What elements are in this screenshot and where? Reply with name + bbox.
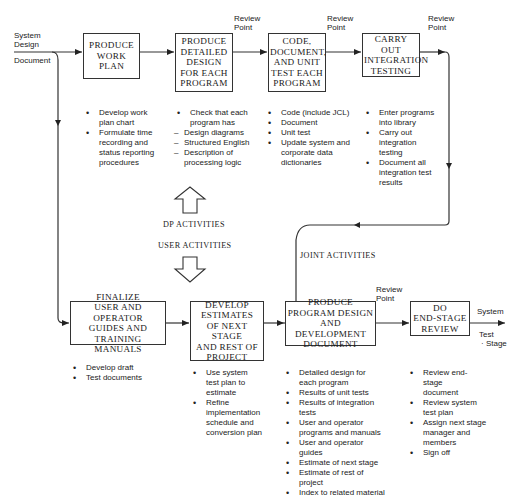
box-line: FINALIZE	[72, 292, 164, 303]
box-finalize-guides: FINALIZE USER AND OPERATOR GUIDES AND TR…	[70, 301, 166, 345]
bullet-item: Code (include JCL)	[265, 108, 373, 118]
input-label-line: Design	[14, 40, 41, 49]
box-code-document-unit-test: CODE, DOCUMENT, AND UNIT TEST EACH PROGR…	[268, 33, 326, 92]
dp-activities-label: DP ACTIVITIES	[163, 220, 225, 229]
box-line: TESTING	[364, 66, 418, 77]
box-develop-estimates: DEVELOP ESTIMATES OF NEXT STAGE AND REST…	[190, 301, 264, 361]
box-line: FOR EACH	[177, 68, 231, 79]
box-line: END-STAGE	[412, 313, 468, 324]
review-line: Point	[234, 23, 260, 32]
box-line: DO	[412, 303, 468, 314]
bullet-item: Review end-stage document	[407, 368, 479, 398]
box-line: PRODUCE	[287, 297, 374, 308]
review-point-label: Review Point	[327, 14, 353, 32]
bullet-item: Design diagrams	[174, 128, 260, 138]
box-line: PRODUCE	[177, 36, 231, 47]
review-line: Review	[376, 285, 402, 294]
box-line: CODE,	[270, 36, 324, 47]
bullet-item: Check that each program has	[174, 108, 260, 128]
bullet-item: Test documents	[70, 373, 160, 383]
box-line: PROJECT	[192, 352, 262, 363]
bullet-item: Use system test plan to estimate	[190, 368, 256, 398]
bullet-item: Refine implementation schedule and conve…	[190, 398, 270, 438]
box-produce-detailed-design: PRODUCE DETAILED DESIGN FOR EACH PROGRAM	[175, 33, 233, 92]
bullet-item: Results of unit tests	[283, 388, 387, 398]
box-line: REVIEW	[412, 324, 468, 335]
review-point-label: Review Point	[234, 14, 260, 32]
bullets-code-document-unit-test: Code (include JCL) Document Unit test Up…	[265, 108, 373, 168]
box-line: PROGRAM	[177, 78, 231, 89]
review-point-label: Review Point	[376, 285, 402, 303]
bullet-item: Carry out integration testing	[363, 128, 439, 158]
bullets-do-end-stage-review: Review end-stage document Review system …	[407, 368, 481, 458]
bullet-item: Document all integration test results	[363, 158, 439, 188]
bullet-item: Review system test plan	[407, 398, 489, 418]
box-line: PROGRAM	[270, 78, 324, 89]
input-label-system-design: System Design	[14, 31, 41, 49]
box-line: PROGRAM DESIGN	[287, 308, 374, 319]
bullets-finalize-guides: Develop draft Test documents	[70, 363, 160, 383]
bullets-carry-out-integration-testing: Enter programs into library Carry out in…	[363, 108, 439, 188]
bullet-item: Develop draft	[70, 363, 160, 373]
box-line: TRAINING MANUALS	[72, 334, 164, 355]
output-line: · Stage	[479, 339, 507, 348]
box-carry-out-integration-testing: CARRY OUT INTEGRATION TESTING	[362, 33, 420, 77]
input-label-document: Document	[14, 56, 50, 65]
up-block-arrow-icon	[175, 187, 205, 213]
output-line: Test	[479, 330, 507, 339]
bullet-item: User and operator guides	[283, 438, 387, 458]
box-line: DOCUMENT	[287, 339, 374, 350]
box-line: PRODUCE	[85, 40, 138, 51]
box-produce-work-plan: PRODUCE WORK PLAN	[83, 33, 140, 79]
box-line: DOCUMENT,	[270, 47, 324, 58]
box-line: DEVELOP	[192, 300, 262, 311]
box-line: TEST EACH	[270, 68, 324, 79]
bullets-produce-work-plan: Develop work plan chart Formulate time r…	[83, 108, 161, 168]
bullet-item: Unit test	[265, 128, 373, 138]
input-label-line: System	[14, 31, 41, 40]
down-block-arrow-icon	[175, 257, 205, 282]
box-line: INTEGRATION	[364, 55, 418, 66]
review-line: Review	[327, 14, 353, 23]
review-line: Point	[376, 294, 402, 303]
box-line: AND REST OF	[192, 342, 262, 353]
joint-activities-label: JOINT ACTIVITIES	[300, 251, 376, 260]
box-line: AND UNIT	[270, 57, 324, 68]
bullet-item: Estimate of rest of project	[283, 468, 387, 488]
user-activities-label: USER ACTIVITIES	[158, 241, 232, 250]
output-word: Stage	[486, 339, 507, 348]
box-do-end-stage-review: DO END-STAGE REVIEW	[410, 301, 470, 336]
bullets-produce-detailed-design: Check that each program has Design diagr…	[174, 108, 260, 168]
bullets-produce-program-design-doc: Detailed design for each program Results…	[283, 368, 387, 498]
review-line: Point	[428, 23, 454, 32]
box-line: OF NEXT STAGE	[192, 321, 262, 342]
bullet-item: User and operator programs and manuals	[283, 418, 387, 438]
box-line: DESIGN	[177, 57, 231, 68]
bullet-item: Formulate time recording and status repo…	[83, 128, 161, 168]
box-line: USER AND OPERATOR	[72, 302, 164, 323]
review-line: Point	[327, 23, 353, 32]
bullet-item: Sign off	[407, 448, 481, 458]
bullet-item: Structured English	[174, 138, 260, 148]
review-line: Review	[234, 14, 260, 23]
box-line: DETAILED	[177, 47, 231, 58]
bullet-item: Estimate of next stage	[283, 458, 387, 468]
box-line: AND DEVELOPMENT	[287, 318, 374, 339]
bullet-item: Results of integration tests	[283, 398, 381, 418]
bullet-item: Update system and corporate data diction…	[265, 138, 351, 168]
output-label-system: System	[477, 307, 504, 316]
review-line: Review	[428, 14, 454, 23]
bullet-item: Detailed design for each program	[283, 368, 371, 388]
box-line: WORK	[85, 51, 138, 62]
bullet-item: Enter programs into library	[363, 108, 439, 128]
review-point-label: Review Point	[428, 14, 454, 32]
bullet-item: Document	[265, 118, 373, 128]
box-line: PLAN	[85, 61, 138, 72]
output-label-test-stage: Test · Stage	[479, 330, 507, 348]
box-line: CARRY OUT	[364, 34, 418, 55]
box-produce-program-design-doc: PRODUCE PROGRAM DESIGN AND DEVELOPMENT D…	[285, 301, 376, 346]
bullet-item: Develop work plan chart	[83, 108, 161, 128]
box-line: GUIDES AND	[72, 323, 164, 334]
bullets-develop-estimates: Use system test plan to estimate Refine …	[190, 368, 270, 438]
box-line: ESTIMATES	[192, 310, 262, 321]
